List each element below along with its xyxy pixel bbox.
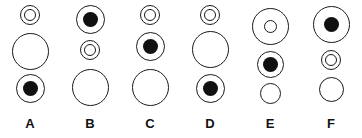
cell-f-3 (301, 77, 361, 102)
inner-ring-icon (24, 9, 36, 21)
large-plain-circle-icon (12, 33, 49, 70)
medium-dot-circle-icon (257, 51, 284, 78)
large-plain-circle-icon (132, 69, 169, 106)
column-a: A (0, 0, 60, 138)
column-d: D (180, 0, 240, 138)
inner-ring-icon (325, 54, 337, 66)
cell-f-1 (301, 6, 361, 43)
medium-dot-circle-icon (136, 32, 165, 61)
cell-e-2 (240, 51, 300, 78)
inner-ring-icon (144, 9, 156, 21)
filled-dot-icon (83, 12, 98, 27)
column-e: E (240, 0, 300, 138)
large-plain-circle-icon (72, 69, 109, 106)
small-double-ring-icon (20, 5, 40, 25)
column-c: C (120, 0, 180, 138)
inner-ring-icon (204, 9, 216, 21)
filled-dot-icon (263, 57, 278, 72)
column-label-d: D (180, 116, 240, 131)
cell-c-2 (120, 32, 180, 61)
column-f: F (301, 0, 361, 138)
medium-dot-circle-icon (196, 74, 225, 103)
cell-a-3 (0, 74, 60, 103)
column-label-c: C (120, 116, 180, 131)
hollow-center-icon (264, 20, 277, 33)
cell-a-1 (0, 5, 60, 25)
filled-dot-icon (143, 39, 158, 54)
column-label-e: E (240, 116, 300, 131)
filled-dot-icon (23, 81, 38, 96)
column-label-b: B (60, 116, 120, 131)
small-double-ring-icon (80, 40, 100, 60)
cell-e-1 (240, 8, 300, 45)
small-double-ring-icon (321, 50, 341, 70)
large-hollow-center-circle-icon (252, 8, 289, 45)
cell-c-1 (120, 5, 180, 25)
column-label-a: A (0, 116, 60, 131)
inner-ring-icon (84, 44, 96, 56)
small-double-ring-icon (140, 5, 160, 25)
medium-plain-circle-icon (319, 77, 344, 102)
cell-d-3 (180, 74, 240, 103)
large-plain-circle-icon (192, 31, 229, 68)
column-b: B (60, 0, 120, 138)
medium-dot-circle-icon (76, 5, 105, 34)
cell-b-1 (60, 5, 120, 34)
small-double-ring-icon (200, 5, 220, 25)
cell-b-3 (60, 69, 120, 106)
circle-pattern-figure: ABCDEF (0, 0, 362, 138)
cell-b-2 (60, 40, 120, 60)
cell-d-1 (180, 5, 240, 25)
medium-dot-circle-icon (16, 74, 45, 103)
cell-f-2 (301, 50, 361, 70)
cell-c-3 (120, 69, 180, 106)
small-plain-circle-icon (260, 83, 281, 104)
large-dot-circle-icon (313, 6, 350, 43)
filled-dot-icon (324, 17, 339, 32)
column-label-f: F (301, 116, 361, 131)
cell-e-3 (240, 83, 300, 104)
cell-a-2 (0, 33, 60, 70)
filled-dot-icon (203, 81, 218, 96)
cell-d-2 (180, 31, 240, 68)
